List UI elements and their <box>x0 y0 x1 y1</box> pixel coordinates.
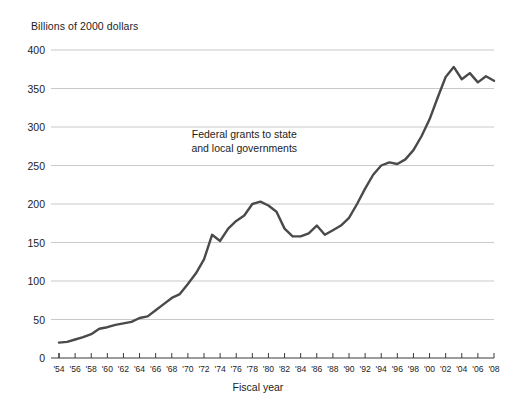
data-series-group <box>59 67 494 343</box>
x-axis-tick-label: '00 <box>424 364 435 374</box>
x-axis-tick-label: '84 <box>295 364 306 374</box>
y-axis-tick-label: 250 <box>15 160 45 172</box>
x-axis-tick-label: '78 <box>247 364 258 374</box>
x-axis-line <box>59 353 494 358</box>
x-axis-tick-label: '92 <box>360 364 371 374</box>
x-axis-tick-label: '62 <box>118 364 129 374</box>
x-axis-tick-label: '96 <box>392 364 403 374</box>
data-line <box>59 67 494 343</box>
gridlines-group <box>51 50 494 358</box>
series-annotation-line-2: and local governments <box>166 142 322 156</box>
x-axis-title: Fiscal year <box>0 381 516 393</box>
x-axis-tick-label: '90 <box>343 364 354 374</box>
x-axis-tick-label: '02 <box>440 364 451 374</box>
x-axis-tick-label: '88 <box>327 364 338 374</box>
x-axis-tick-label: '58 <box>86 364 97 374</box>
x-axis-tick-label: '98 <box>408 364 419 374</box>
x-axis-tick-label: '82 <box>279 364 290 374</box>
chart-container: Billions of 2000 dollars 050100150200250… <box>0 0 516 405</box>
x-axis-tick-label: '94 <box>376 364 387 374</box>
y-axis-tick-label: 350 <box>15 83 45 95</box>
y-axis-tick-label: 100 <box>15 275 45 287</box>
y-axis-tick-label: 150 <box>15 237 45 249</box>
y-axis-tick-label: 400 <box>15 44 45 56</box>
x-axis-tick-label: '74 <box>215 364 226 374</box>
x-axis-tick-label: '66 <box>150 364 161 374</box>
x-axis-tick-label: '54 <box>53 364 64 374</box>
x-axis-ticks-group <box>59 353 494 358</box>
x-axis-tick-label: '70 <box>182 364 193 374</box>
series-annotation: Federal grants to state and local govern… <box>166 128 322 156</box>
x-axis-tick-label: '86 <box>311 364 322 374</box>
x-axis-tick-label: '80 <box>263 364 274 374</box>
x-axis-tick-label: '68 <box>166 364 177 374</box>
y-axis-tick-label: 200 <box>15 198 45 210</box>
x-axis-tick-label: '04 <box>456 364 467 374</box>
x-axis-tick-label: '08 <box>488 364 499 374</box>
y-axis-tick-label: 0 <box>15 352 45 364</box>
x-axis-tick-label: '56 <box>70 364 81 374</box>
chart-plot-area <box>0 0 516 405</box>
x-axis-tick-label: '72 <box>198 364 209 374</box>
x-axis-tick-label: '60 <box>102 364 113 374</box>
x-axis-tick-label: '64 <box>134 364 145 374</box>
y-axis-tick-label: 300 <box>15 121 45 133</box>
y-axis-tick-label: 50 <box>15 314 45 326</box>
x-axis-tick-label: '76 <box>231 364 242 374</box>
series-annotation-line-1: Federal grants to state <box>166 128 322 142</box>
x-axis-tick-label: '06 <box>472 364 483 374</box>
